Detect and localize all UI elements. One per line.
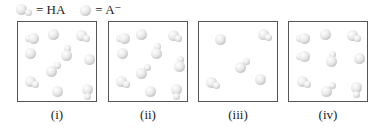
panel-label-3: (iii) — [198, 107, 278, 123]
a-minus-ion-icon — [79, 4, 92, 17]
panel-label-2: (ii) — [108, 107, 188, 123]
panel-label-4: (iv) — [288, 107, 368, 123]
panel-box-1 — [17, 21, 97, 102]
legend-item-a-minus: = A⁻ — [79, 2, 121, 18]
ha-molecule-icon — [15, 4, 33, 17]
legend: = HA = A⁻ — [15, 2, 135, 18]
panel-box-3 — [198, 21, 278, 102]
panel-label-1: (i) — [17, 107, 97, 123]
panel-box-2 — [108, 21, 188, 102]
legend-item-ha: = HA — [15, 2, 65, 18]
legend-label-ha: = HA — [36, 2, 65, 18]
legend-label-a-minus: = A⁻ — [95, 2, 121, 18]
panel-box-4 — [288, 21, 368, 102]
